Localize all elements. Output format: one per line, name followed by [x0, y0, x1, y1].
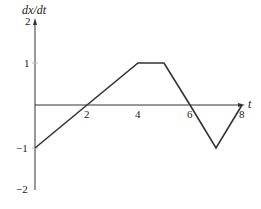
x-axis-label: t	[248, 97, 252, 111]
y-tick-label-m2: −2	[16, 183, 28, 195]
chart: 2 1 −1 −2 2 4 6 8 dx/dt t	[0, 0, 261, 209]
y-axis-arrow-icon	[33, 18, 37, 25]
y-tick-label-1: 1	[24, 57, 30, 69]
y-tick-label-m1: −1	[16, 142, 28, 154]
x-tick-label-4: 4	[135, 108, 141, 120]
x-tick-label-2: 2	[84, 108, 90, 120]
y-axis-label: dx/dt	[22, 3, 47, 17]
